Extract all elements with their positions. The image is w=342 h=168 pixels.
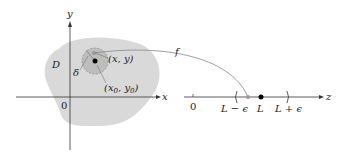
delta-label: δ xyxy=(73,67,79,78)
mapping-label: f xyxy=(174,46,181,57)
right-bound-label: L + ϵ xyxy=(274,103,302,114)
x-axis-label: x xyxy=(162,91,168,102)
z-origin-label: 0 xyxy=(190,101,196,112)
limit-definition-diagram: D y x 0 δ (x, y) (x0, y0) f z 0 L − ϵ L … xyxy=(0,0,342,168)
limit-point xyxy=(259,95,264,100)
center-point xyxy=(93,59,98,64)
limit-label: L xyxy=(256,103,264,114)
x-axis-arrow-icon xyxy=(156,95,161,99)
z-axis-arrow-icon xyxy=(319,95,324,99)
y-axis-arrow-icon xyxy=(68,21,72,27)
origin-label: 0 xyxy=(61,100,67,111)
domain-label: D xyxy=(51,59,60,70)
left-bound-label: L − ϵ xyxy=(220,103,248,114)
z-axis-label: z xyxy=(325,91,332,102)
y-axis-label: y xyxy=(66,8,73,19)
image-point xyxy=(246,95,250,99)
moving-point-label: (x, y) xyxy=(108,53,134,64)
